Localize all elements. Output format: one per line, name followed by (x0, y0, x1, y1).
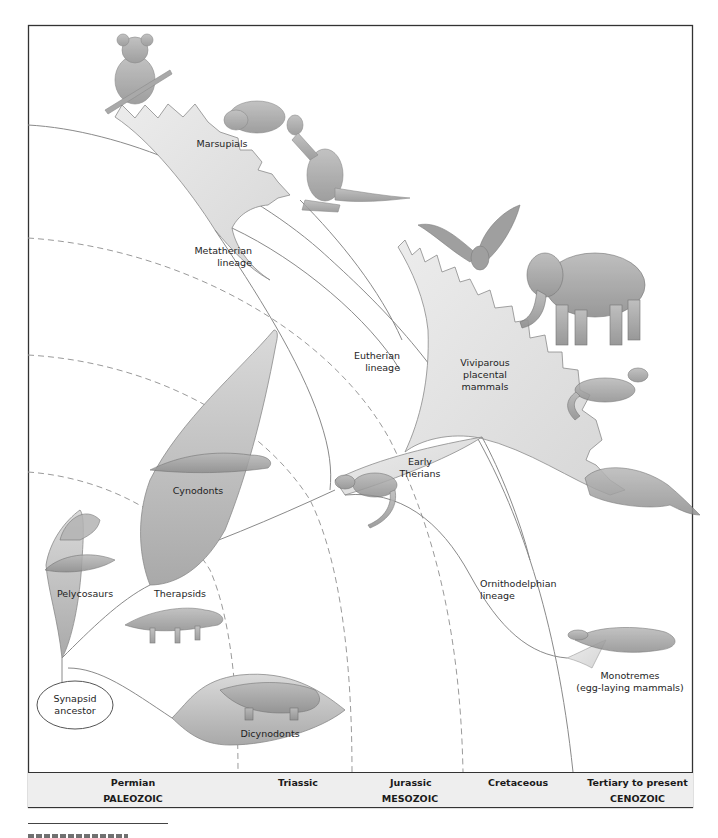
label-ornithodelphian-lineage: Ornithodelphian lineage (480, 578, 590, 602)
label-pelycosaurs: Pelycosaurs (45, 588, 125, 600)
therapsid-illustration (125, 608, 223, 643)
caption-rule (28, 823, 168, 824)
era-cell-paleozoic: Permian PALEOZOIC (28, 773, 238, 807)
wombat-illustration (224, 101, 285, 133)
kangaroo-illustration (287, 115, 410, 212)
period-triassic: Triassic (278, 777, 318, 788)
era-paleozoic: PALEOZOIC (28, 793, 238, 804)
label-placental-line2: placental (445, 369, 525, 381)
label-placental-line3: mammals (445, 381, 525, 393)
era-mesozoic: MESOZOIC (238, 793, 582, 804)
label-synapsid-line1: Synapsid (37, 693, 113, 705)
early-therian-illustration (335, 473, 397, 528)
label-monotremes-line1: Monotremes (570, 670, 690, 682)
period-tertiary-to-present: Tertiary to present (582, 777, 693, 788)
manatee-illustration (585, 468, 700, 515)
label-marsupials: Marsupials (182, 138, 262, 150)
caption-text-cutoff (28, 834, 128, 838)
label-early-therians: Early Therians (390, 456, 450, 480)
label-synapsid-ancestor: Synapsid ancestor (37, 693, 113, 717)
label-metatherian-lineage: Metatherian lineage (170, 245, 252, 269)
geologic-timeline-table: Permian PALEOZOIC Triassic Jurassic Cret… (28, 772, 693, 808)
label-eutherian-line1: Eutherian (340, 350, 400, 362)
label-early-therians-line2: Therians (390, 468, 450, 480)
label-eutherian-line2: lineage (340, 362, 400, 374)
label-placental-mammals: Viviparous placental mammals (445, 357, 525, 393)
label-therapsids: Therapsids (140, 588, 220, 600)
label-monotremes-line2: (egg-laying mammals) (570, 682, 690, 694)
label-ornithodelphian-line1: Ornithodelphian (480, 578, 590, 590)
label-metatherian-line2: lineage (170, 257, 252, 269)
period-jurassic: Jurassic (390, 777, 432, 788)
phylogeny-figure: Marsupials Metatherian lineage Eutherian… (0, 0, 718, 838)
label-synapsid-line2: ancestor (37, 705, 113, 717)
label-dicynodonts: Dicynodonts (225, 728, 315, 740)
arc-cretaceous-tertiary (28, 125, 573, 772)
label-eutherian-lineage: Eutherian lineage (340, 350, 400, 374)
label-cynodonts: Cynodonts (158, 485, 238, 497)
era-cell-cenozoic: Tertiary to present CENOZOIC (582, 773, 693, 807)
period-cretaceous: Cretaceous (488, 777, 548, 788)
placental-trunk-line (482, 437, 530, 560)
label-early-therians-line1: Early (390, 456, 450, 468)
period-permian: Permian (28, 777, 238, 788)
elephant-illustration (520, 253, 645, 345)
koala-illustration (105, 34, 172, 114)
platypus-illustration (568, 627, 675, 652)
eutherian-lineage-line (300, 200, 402, 340)
era-cenozoic: CENOZOIC (582, 793, 693, 804)
era-cell-mesozoic: Triassic Jurassic Cretaceous MESOZOIC (238, 773, 582, 807)
label-metatherian-line1: Metatherian (170, 245, 252, 257)
label-placental-line1: Viviparous (445, 357, 525, 369)
label-monotremes: Monotremes (egg-laying mammals) (570, 670, 690, 694)
label-ornithodelphian-line2: lineage (480, 590, 590, 602)
